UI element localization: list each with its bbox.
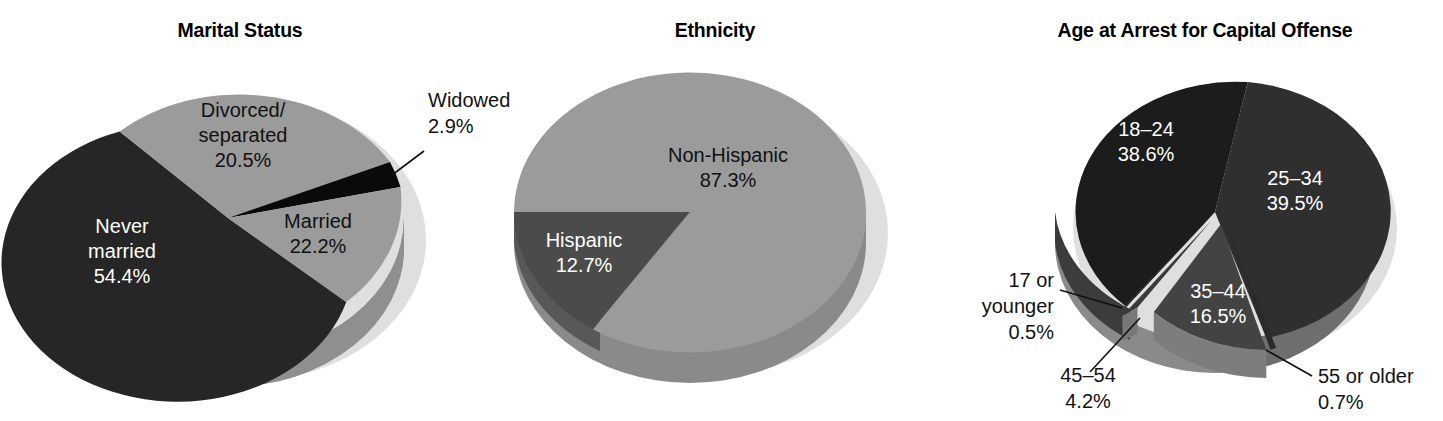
figure-canvas: Marital Status Nevermarried54.4% Divorce… xyxy=(0,0,1443,421)
chart-panel-ethnicity: Ethnicity Non-Hispanic87.3% Hispanic12.7… xyxy=(480,0,950,421)
pie-chart-ethnicity: Non-Hispanic87.3% Hispanic12.7% xyxy=(480,0,950,421)
pie-chart-age-at-arrest: 18–2438.6% 25–3439.5% 35–4416.5% 17 oryo… xyxy=(950,0,1443,421)
slice-label-never-married: Nevermarried54.4% xyxy=(88,215,156,287)
callout-label-17-younger: 17 oryounger0.5% xyxy=(982,269,1055,343)
callout-label-55-older: 55 or older0.7% xyxy=(1318,365,1414,413)
chart-panel-age-at-arrest: Age at Arrest for Capital Offense xyxy=(950,0,1443,421)
pie-chart-marital-status: Nevermarried54.4% Divorced/separated20.5… xyxy=(0,0,480,421)
chart-panel-marital-status: Marital Status Nevermarried54.4% Divorce… xyxy=(0,0,480,421)
callout-label-45-54: 45–544.2% xyxy=(1060,364,1116,412)
